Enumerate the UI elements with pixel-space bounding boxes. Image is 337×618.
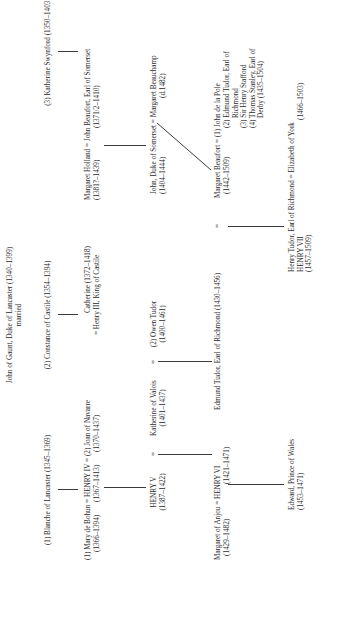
katherine-of-valois: Katherine of Valois (150, 370, 159, 446)
edward-prince-block: Edward, Prince of Wales (1453–1471) (288, 439, 305, 510)
catherine-name: Catherine (1372–1418) (84, 246, 93, 335)
connector-beaufort-to-somerset (104, 145, 146, 146)
genealogy-chart: John of Gaunt, Duke of Lancaster (1340–1… (0, 0, 337, 618)
husband-1: (1) John de la Pole (214, 83, 222, 137)
husband-2-cont: Richmond (232, 49, 241, 128)
margaret-of-anjou-dates: (1429–1482) (223, 519, 232, 556)
husband-3: (3) Sir Henry Stafford (240, 49, 249, 128)
husband-4-cont: Derby (1435–1504) (257, 49, 266, 128)
marriage-sign: = (288, 174, 296, 178)
connector-blanche (58, 489, 78, 490)
henry-vii-title: HENRY VII (297, 122, 306, 272)
connector-henry-iv-to-henry-v (104, 487, 146, 488)
wife-blanche: (1) Blanche of Lancaster (1345–1369) (44, 430, 53, 550)
marriage-sign: = (214, 139, 222, 143)
title-john-of-gaunt: John of Gaunt, Duke of Lancaster (1340–1… (6, 240, 15, 390)
henry-v-dates: (1387–1422) (159, 462, 168, 522)
catherine-block: Catherine (1372–1418) = Henry III, King … (84, 246, 101, 335)
john-beaufort: John Beaufort, Earl of Somerset (84, 49, 92, 141)
elizabeth-of-york-dates: (1466–1503) (297, 83, 306, 120)
marriage-sign: = (214, 501, 222, 505)
owen-tudor-block: (2) Owen Tudor (1400–1461) (150, 294, 167, 354)
katherine-of-valois-dates: (1401–1437) (159, 370, 168, 446)
margaret-beauchamp: Margaret Beauchamp (150, 55, 158, 117)
title-married: married (15, 240, 24, 390)
henry-vi-family: Margaret of Anjou = HENRY VI (214, 466, 223, 560)
margaret-holland: Margaret Holland (84, 149, 92, 200)
connector-owen-to-edmund (158, 361, 212, 362)
henry-iv: HENRY IV (84, 464, 92, 497)
henry-vii-block: Henry Tudor, Earl of Richmond = Elizabet… (288, 122, 314, 272)
henry-iv-family: (1) Mary de Bohun = HENRY IV = (2) Joan … (84, 400, 93, 560)
owen-tudor-dates: (1400–1461) (159, 294, 168, 354)
connector-henry-vi-to-edward (228, 484, 284, 485)
catherine-spouse: = Henry III, King of Castile (93, 246, 102, 335)
marriage-sign: = (84, 499, 92, 503)
mary-de-bohun: (1) Mary de Bohun (84, 505, 92, 560)
mary-de-bohun-dates: (1366–1394) (93, 515, 102, 552)
henry-tudor-line: Henry Tudor, Earl of Richmond = Elizabet… (288, 122, 297, 272)
marriage-sign-edmund: = (214, 224, 223, 228)
joan-of-navarre: (2) Joan of Navarre (84, 400, 92, 456)
henry-v-block: HENRY V (1387–1422) (150, 462, 167, 522)
henry-v: HENRY V (150, 462, 159, 522)
katherine-valois-block: Katherine of Valois (1401–1437) (150, 370, 167, 446)
margaret-beaufort-dates: (1442–1509) (223, 157, 232, 194)
wife-constance: (2) Constance of Castile (1354–1394) (44, 255, 53, 375)
margaret-beaufort-block: Margaret Beaufort = (1) John de la Pole (214, 83, 223, 198)
beaufort-earl-family: Margaret Holland = John Beaufort, Earl o… (84, 49, 93, 200)
henry-vi: HENRY VI (214, 466, 222, 499)
owen-tudor: (2) Owen Tudor (150, 294, 159, 354)
john-beaufort-dates: (1371/2–1410) (93, 85, 102, 128)
margaret-beaufort: Margaret Beaufort (214, 145, 222, 198)
connector-edmund-to-henry-vii (228, 226, 284, 227)
elizabeth-of-york: Elizabeth of York (288, 122, 296, 173)
margaret-beauchamp-dates: (d.1482) (159, 73, 168, 98)
husband-4: (4) Thomas Stanley, Earl of (249, 49, 258, 128)
joan-of-navarre-dates: (1370–1437) (93, 415, 102, 452)
husband-2: (2) Edmund Tudor, Earl of (223, 49, 232, 128)
margaret-of-anjou: Margaret of Anjou (214, 507, 222, 560)
marriage-sign: = (84, 458, 92, 462)
henry-tudor: Henry Tudor, Earl of Richmond (288, 180, 296, 272)
henry-vi-dates: (1421–1471) (223, 447, 232, 484)
connector-somerset-to-margaret-beaufort (155, 118, 215, 178)
title-block: John of Gaunt, Duke of Lancaster (1340–1… (6, 240, 23, 390)
edward-prince-dates: (1453–1471) (297, 439, 306, 510)
edward-prince-of-wales: Edward, Prince of Wales (288, 439, 297, 510)
edmund-tudor: Edmund Tudor, Earl of Richmond (1430–145… (214, 273, 223, 410)
wife-katherine-swynford: (3) Katherine Swynford (1350–1403) (44, 0, 53, 112)
margaret-beaufort-husbands: (2) Edmund Tudor, Earl of Richmond (3) S… (223, 49, 266, 128)
margaret-holland-dates: (1381?–1439) (93, 160, 102, 200)
marriage-sign: = (84, 143, 92, 147)
connector-swynford (58, 51, 78, 52)
henry-iv-dates: (1367–1413) (93, 465, 102, 502)
henry-vii-dates: (1457–1509) (305, 122, 314, 272)
connector-henry-v-to-henry-vi (158, 454, 212, 455)
connector-constance (58, 314, 78, 315)
